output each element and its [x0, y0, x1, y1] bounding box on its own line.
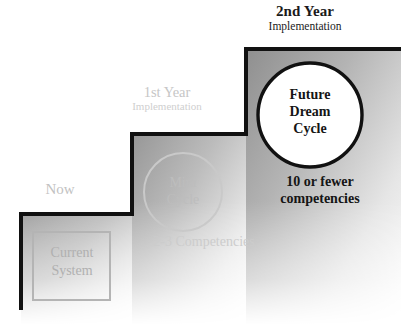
first-year-subheading: Implementation — [105, 100, 229, 112]
label-second-year: 2nd Year Implementation — [243, 3, 367, 33]
second-year-caption: 10 or fewer competencies — [253, 173, 387, 207]
future-dream-cycle-line-3: Cycle — [269, 120, 351, 137]
future-dream-cycle-line-1: Future — [269, 86, 351, 103]
second-year-caption-line-1: 10 or fewer — [253, 173, 387, 190]
label-now: Now — [22, 181, 98, 198]
first-year-caption: 2-3 Competencies — [136, 234, 272, 250]
mini-cycle-label: Mini Cycle — [150, 175, 216, 209]
diagram-canvas: 2nd Year Implementation 1st Year Impleme… — [0, 0, 401, 325]
label-first-year: 1st Year Implementation — [105, 84, 229, 113]
second-year-caption-line-2: competencies — [253, 190, 387, 207]
second-year-subheading: Implementation — [243, 20, 367, 33]
mini-cycle-line-2: Cycle — [150, 192, 216, 209]
future-dream-cycle-line-2: Dream — [269, 103, 351, 120]
current-system-line-2: System — [36, 262, 108, 280]
current-system-line-1: Current — [36, 244, 108, 262]
current-system-label: Current System — [36, 244, 108, 279]
mini-cycle-line-1: Mini — [150, 175, 216, 192]
future-dream-cycle-label: Future Dream Cycle — [269, 86, 351, 137]
second-year-heading: 2nd Year — [243, 3, 367, 20]
first-year-heading: 1st Year — [105, 84, 229, 100]
